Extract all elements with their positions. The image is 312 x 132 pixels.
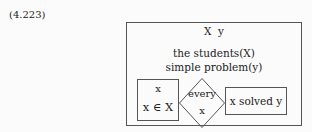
quantifier-diamond: every x: [179, 78, 225, 128]
problem-label: simple problem(y): [127, 61, 301, 73]
variable-box: x x ∈ X: [137, 79, 179, 121]
variable-label: x: [138, 83, 178, 94]
box-header: X y: [127, 25, 301, 37]
students-label: the students(X): [127, 47, 301, 59]
predicate-box: x solved y: [225, 87, 287, 115]
quantifier-label: every: [179, 88, 225, 99]
quantified-variable: x: [179, 105, 225, 116]
diamond-shape: [179, 78, 225, 128]
membership-label: x ∈ X: [138, 100, 178, 114]
equation-number: (4.223): [9, 9, 45, 20]
